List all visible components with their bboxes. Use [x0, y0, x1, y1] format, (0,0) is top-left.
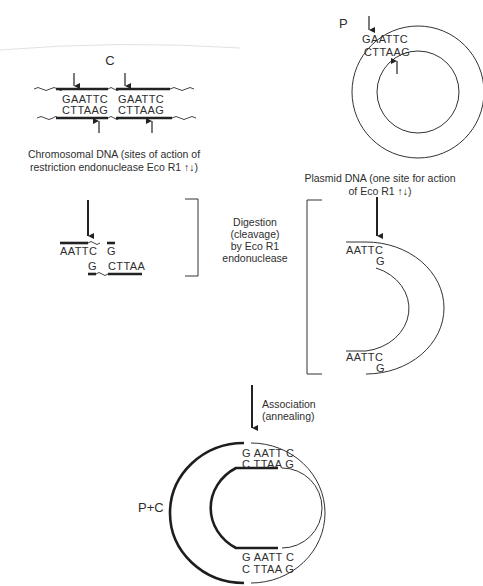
plasmid-caption-line2: of Eco R1 ↑↓)	[348, 185, 411, 197]
bracket-right	[307, 200, 322, 374]
digestion-caption-line3: by Eco R1	[231, 240, 280, 252]
recombinant-bottom-outer-seq: G AATT C	[242, 551, 294, 563]
plasmid-caption-line1: Plasmid DNA (one site for action	[304, 172, 455, 184]
recombinant-bottom-inner-seq: C TTAA G	[242, 563, 294, 575]
digestion-caption-line2: (cleavage)	[230, 228, 279, 240]
recombinant-dna: P+C G AATT C C TTAA G G AATT C C TTAA G	[138, 443, 325, 583]
site1-bottom-seq: CTTAAG	[62, 104, 108, 116]
digestion-caption-line1: Digestion	[233, 216, 277, 228]
bottom-strand-wavy-left	[37, 117, 57, 120]
association-caption-line1: Association	[262, 398, 316, 410]
recombinant-dna-diagram: C GAATTC GAATTC CTTAAG CTTAAG Chromosoma…	[0, 0, 483, 586]
fragment-bottom-right-seq: CTTAA	[108, 260, 146, 272]
fragment-bottom-left-seq: G	[88, 260, 97, 272]
site2-bottom-seq: CTTAAG	[118, 104, 164, 116]
recombinant-top-inner-seq: C TTAA G	[242, 458, 294, 470]
cut-plasmid-top-inner-seq: G	[376, 255, 385, 267]
bracket-left	[185, 199, 198, 276]
plasmid-inner-seq: CTTAAG	[364, 46, 410, 58]
recombinant-outer-chromosomal-strand	[170, 443, 244, 583]
plasmid-dna: P GAATTC CTTAAG Plasmid DNA (one site fo…	[304, 16, 483, 197]
cut-plasmid-bottom-inner-seq: G	[376, 362, 385, 374]
plasmid-label: P	[339, 16, 348, 31]
bottom-strand-wavy-right	[172, 117, 196, 120]
plasmid-inner-strand	[377, 51, 459, 133]
digestion-caption-line4: endonuclease	[222, 252, 288, 264]
top-strand-wavy-right	[170, 88, 194, 91]
fragment-top-right-seq: G	[107, 245, 116, 257]
fragment-bottom-break	[96, 273, 108, 276]
scan-artifact	[0, 44, 240, 50]
chromosomal-caption-line1: Chromosomal DNA (sites of action of	[28, 148, 200, 160]
association-caption-line2: (annealing)	[262, 410, 315, 422]
digestion-step: AATTC G G CTTAA Digestion (cleavage) by …	[60, 197, 444, 374]
plasmid-outer-seq: GAATTC	[362, 33, 408, 45]
chromosomal-label: C	[105, 53, 114, 68]
fragment-top-left-seq: AATTC	[60, 245, 97, 257]
association-step: Association (annealing)	[252, 385, 316, 428]
cut-plasmid-inner-strand	[346, 268, 409, 351]
recombinant-inner-chromosomal-strand	[211, 468, 278, 548]
recombinant-label: P+C	[138, 500, 164, 515]
chromosomal-dna: C GAATTC GAATTC CTTAAG CTTAAG Chromosoma…	[28, 53, 200, 173]
chromosomal-caption-line2: restriction endonuclease Eco R1 ↑↓)	[30, 161, 198, 173]
